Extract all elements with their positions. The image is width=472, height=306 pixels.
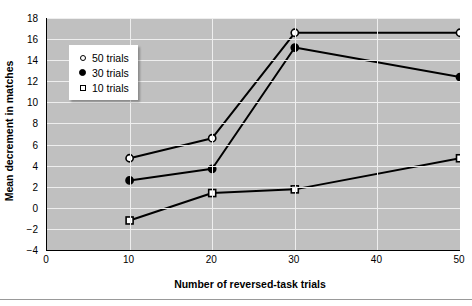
y-tick-label: −4 [4, 245, 42, 256]
gridline-horizontal [47, 18, 460, 19]
gridline-vertical [295, 18, 296, 250]
y-tick-label: −2 [4, 223, 42, 234]
gridline-horizontal [47, 123, 460, 124]
gridline-horizontal [47, 166, 460, 167]
gridline-horizontal [47, 208, 460, 209]
y-tick-label: 4 [4, 160, 42, 171]
legend-item: 10 trials [76, 80, 129, 95]
x-tick-label: 20 [206, 254, 217, 265]
y-tick-label: 6 [4, 139, 42, 150]
gridline-horizontal [47, 229, 460, 230]
y-tick-label: 12 [4, 76, 42, 87]
y-tick-label: 14 [4, 55, 42, 66]
x-tick-label: 30 [288, 254, 299, 265]
legend-item: 50 trials [76, 50, 129, 65]
legend-item-label: 50 trials [92, 52, 129, 64]
x-axis-title: Number of reversed-task trials [40, 278, 460, 290]
filled-circle-glyph [79, 69, 86, 76]
y-tick-label: 16 [4, 34, 42, 45]
gridline-horizontal [47, 145, 460, 146]
legend-marker-open-square-icon [76, 85, 89, 91]
x-tick-label: 40 [371, 254, 382, 265]
open-circle-glyph [80, 55, 86, 61]
x-tick-label: 50 [453, 254, 464, 265]
legend-item-label: 10 trials [92, 82, 129, 94]
x-tick-label: 0 [43, 254, 49, 265]
gridline-horizontal [47, 102, 460, 103]
y-axis-tick-labels: −4−2024681012141618 [0, 0, 42, 306]
legend-item-label: 30 trials [92, 67, 129, 79]
y-tick-label: 2 [4, 181, 42, 192]
footer-divider [0, 299, 472, 300]
gridline-vertical [212, 18, 213, 250]
y-tick-label: 0 [4, 202, 42, 213]
chart-figure: Mean decrement in matches −4−20246810121… [0, 0, 472, 306]
legend-item: 30 trials [76, 65, 129, 80]
gridline-vertical [377, 18, 378, 250]
x-tick-label: 10 [123, 254, 134, 265]
legend-marker-open-circle-icon [76, 55, 89, 61]
open-square-glyph [80, 85, 86, 91]
legend-marker-filled-circle-icon [76, 69, 89, 76]
gridline-horizontal [47, 39, 460, 40]
gridline-horizontal [47, 187, 460, 188]
y-tick-label: 8 [4, 118, 42, 129]
y-tick-label: 18 [4, 13, 42, 24]
y-tick-label: 10 [4, 97, 42, 108]
chart-legend: 50 trials30 trials10 trials [69, 45, 138, 100]
